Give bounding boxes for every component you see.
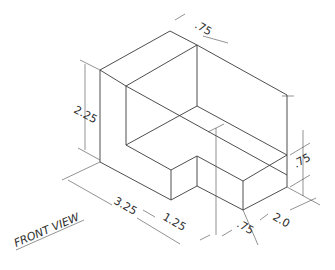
dim-width: 2.0 [260,187,320,230]
dim-label-height: 2.25 [72,103,100,126]
dim-front-segment: 1.25 [143,210,210,240]
dim-label-width: 2.0 [271,210,293,230]
view-label-group: FRONT VIEW [12,210,84,250]
dim-notch-width: .75 [222,210,258,245]
dim-height-total: 2.25 [72,60,100,160]
dim-step-height: .75 [290,130,313,196]
dim-top-depth: .75 [175,14,228,43]
dim-label-top: .75 [193,18,215,38]
dim-label-front: 1.25 [161,210,189,234]
dim-label-notch: .75 [235,217,257,237]
dim-label-length: 3.25 [112,194,140,218]
isometric-drawing-canvas: 2.25 .75 .75 3.25 1.25 .75 2.0 [0,0,335,270]
dim-overall-length: 3.25 [62,162,180,244]
dim-label-step: .75 [291,151,313,171]
object-outline [100,31,287,210]
front-view-label: FRONT VIEW [12,210,82,250]
